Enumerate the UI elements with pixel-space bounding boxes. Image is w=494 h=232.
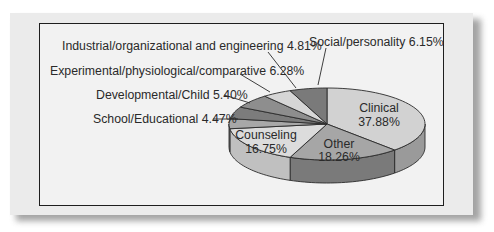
label-counseling-name: Counseling [235, 128, 297, 142]
label-other-name: Other [324, 137, 355, 151]
label-other-pct: 18.26% [318, 150, 360, 164]
label-school: School/Educational 4.47% [93, 112, 237, 126]
label-clinical-name: Clinical [359, 101, 399, 115]
label-developmental: Developmental/Child 5.40% [96, 88, 248, 102]
label-industrial: Industrial/organizational and engineerin… [62, 39, 322, 53]
label-counseling-pct: 16.75% [245, 142, 287, 156]
label-clinical-pct: 37.88% [358, 115, 400, 129]
leader-social [318, 48, 326, 85]
pie-chart: Industrial/organizational and engineerin… [0, 0, 494, 232]
label-social: Social/personality 6.15% [309, 35, 444, 49]
label-experimental: Experimental/physiological/comparative 6… [50, 64, 304, 78]
